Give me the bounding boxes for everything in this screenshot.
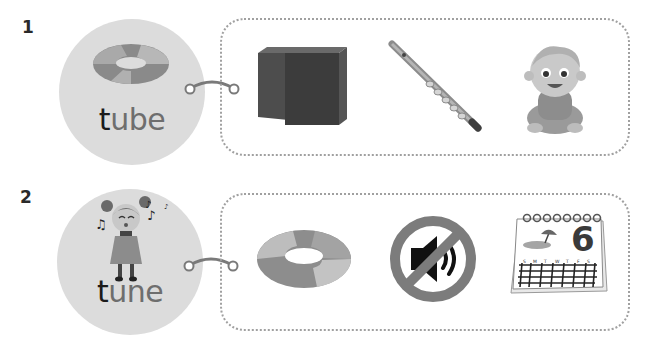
exercise-number-2: 2 (20, 187, 32, 207)
svg-text:S: S (523, 259, 526, 264)
calendar-day: 6 (571, 219, 595, 259)
svg-text:T: T (543, 259, 547, 264)
word-rest: ube (110, 102, 165, 137)
option-tube[interactable] (255, 228, 353, 290)
word-first-letter: t (97, 274, 108, 309)
word-label-tune: tune (57, 277, 203, 307)
calendar-icon: 6 SMT WTFS (509, 213, 609, 299)
cube-icon (255, 45, 347, 127)
swim-ring-icon (91, 39, 171, 89)
option-baby[interactable] (520, 40, 590, 136)
option-cube[interactable] (255, 45, 347, 127)
word-first-letter: t (99, 102, 110, 137)
svg-text:M: M (533, 259, 537, 264)
svg-text:T: T (565, 259, 569, 264)
word-rest: une (108, 274, 163, 309)
svg-text:♪: ♪ (145, 199, 151, 210)
flute-icon (388, 40, 484, 134)
singing-girl-icon: ♫ ♪ ♪ ♪ (95, 194, 175, 284)
word-label-tube: tube (59, 105, 205, 135)
exercise-number-1: 1 (22, 17, 34, 37)
svg-text:S: S (587, 259, 590, 264)
baby-icon (520, 40, 590, 136)
option-june[interactable]: 6 SMT WTFS (509, 213, 609, 299)
svg-text:♪: ♪ (164, 203, 168, 211)
option-mute[interactable] (388, 214, 478, 304)
svg-text:♫: ♫ (95, 217, 107, 232)
swim-ring-icon (255, 228, 353, 290)
svg-text:W: W (555, 259, 560, 264)
svg-text:♪: ♪ (147, 208, 155, 223)
svg-text:F: F (577, 259, 580, 264)
option-flute[interactable] (388, 40, 484, 134)
mute-speaker-icon (388, 214, 478, 304)
